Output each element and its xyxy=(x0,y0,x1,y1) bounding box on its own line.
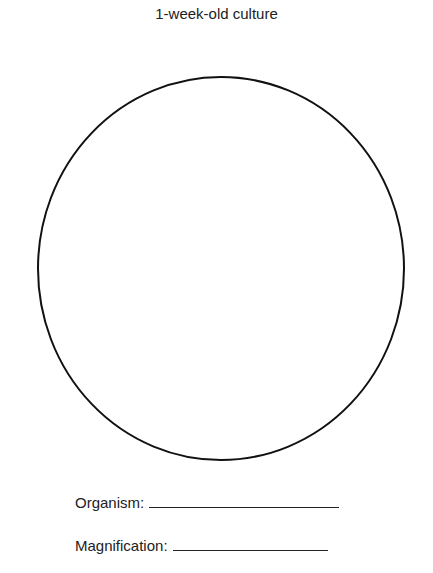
magnification-label: Magnification: xyxy=(75,537,168,554)
organism-blank-line[interactable] xyxy=(149,506,339,508)
magnification-field: Magnification: xyxy=(75,537,328,554)
organism-field: Organism: xyxy=(75,494,339,511)
magnification-blank-line[interactable] xyxy=(173,549,328,551)
field-of-view-circle xyxy=(0,0,433,573)
organism-label: Organism: xyxy=(75,494,144,511)
